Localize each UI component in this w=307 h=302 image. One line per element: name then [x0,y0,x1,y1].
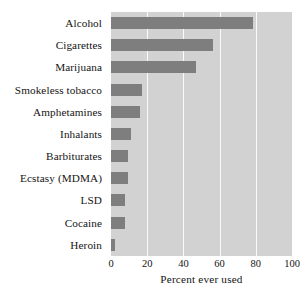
x-tick-label: 60 [214,258,225,270]
bar [111,106,140,118]
x-tick-label: 80 [251,258,262,270]
category-label: Amphetamines [33,106,104,118]
bar-row [111,150,292,162]
bar [111,84,142,96]
x-axis-title: Percent ever used [111,273,292,286]
category-label: Cocaine [65,217,104,229]
x-tick-label: 20 [142,258,153,270]
value-axis-ticks: 020406080100 [111,258,292,272]
bar-row [111,39,292,51]
bar-row [111,172,292,184]
bar-chart: AlcoholCigarettesMarijuanaSmokeless toba… [0,0,307,302]
bar-row [111,84,292,96]
bar [111,239,115,251]
category-axis-labels: AlcoholCigarettesMarijuanaSmokeless toba… [0,12,104,256]
bar-row [111,239,292,251]
x-tick-label: 100 [284,258,300,270]
x-tick-label: 40 [178,258,189,270]
bar-row [111,106,292,118]
bar [111,61,196,73]
x-tick-label: 0 [108,258,113,270]
category-label: Barbiturates [46,150,104,162]
category-label: Heroin [70,239,104,251]
category-label: Inhalants [60,128,104,140]
bar-row [111,17,292,29]
bar [111,128,131,140]
bar-series [111,12,292,256]
plot-area [111,12,292,256]
category-label: Cigarettes [56,39,104,51]
bar [111,17,253,29]
bar [111,217,125,229]
bar [111,194,125,206]
bar [111,172,128,184]
bar-row [111,194,292,206]
category-label: Ecstasy (MDMA) [20,172,104,184]
category-label: Marijuana [55,61,104,73]
bar [111,150,128,162]
bar-row [111,217,292,229]
bar-row [111,61,292,73]
category-label: Smokeless tobacco [15,84,104,96]
bar-row [111,128,292,140]
bar [111,39,213,51]
category-label: LSD [81,194,104,206]
category-label: Alcohol [65,17,104,29]
